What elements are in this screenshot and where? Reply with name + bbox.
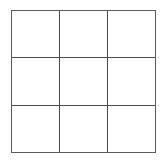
cell-1-0[interactable] [12, 58, 60, 106]
cell-1-1[interactable] [60, 58, 108, 106]
cell-2-1[interactable] [60, 106, 108, 152]
cell-2-0[interactable] [12, 106, 60, 152]
cell-0-2[interactable] [108, 11, 155, 58]
cell-2-2[interactable] [108, 106, 155, 152]
cell-1-2[interactable] [108, 58, 155, 106]
cell-0-1[interactable] [60, 11, 108, 58]
tic-tac-toe-board [11, 10, 156, 153]
cell-0-0[interactable] [12, 11, 60, 58]
